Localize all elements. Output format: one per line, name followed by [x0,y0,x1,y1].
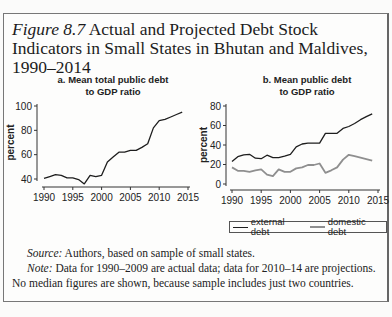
source-label: Source: [27,247,62,259]
y-tick-label: 60 [21,149,33,160]
y-tick-label: 80 [21,125,33,136]
legend-domestic-swatch [310,226,325,228]
x-tick-label: 2005 [119,192,142,203]
note-label: Note: [27,262,53,274]
y-tick-label: 0 [215,179,221,190]
caption: Source: Authors, based on sample of smal… [12,246,384,291]
y-tick-label: 80 [210,101,222,112]
source-line: Source: Authors, based on sample of smal… [12,246,384,261]
x-tick-label: 1995 [62,192,85,203]
legend-external-label: external debt [251,217,305,237]
y-axis-label: percent [198,126,209,163]
x-tick-label: 2010 [148,192,171,203]
source-text: Authors, based on sample of small states… [62,247,255,259]
x-tick-label: 2015 [177,192,200,203]
y-tick-label: 100 [15,101,32,112]
x-tick-label: 1990 [221,195,244,206]
series-line-total-public-debt [44,112,182,184]
x-tick-label: 2010 [338,195,361,206]
y-tick-label: 60 [210,120,222,131]
y-tick-label: 40 [210,140,222,151]
y-axis-label: percent [5,124,16,161]
legend-domestic-label: domestic debt [328,217,386,237]
legend: external debt domestic debt [229,221,387,233]
x-tick-label: 2000 [90,192,113,203]
x-tick-label: 1990 [33,192,56,203]
x-tick-label: 1995 [250,195,273,206]
series-line-domestic-debt [232,155,372,176]
note-text: Data for 1990–2009 are actual data; data… [12,262,376,289]
y-tick-label: 40 [21,174,33,185]
x-tick-label: 2000 [279,195,302,206]
y-tick-label: 20 [210,159,222,170]
x-tick-label: 2005 [308,195,331,206]
note-line: Note: Data for 1990–2009 are actual data… [12,261,384,291]
series-line-external-debt [232,114,372,162]
x-tick-label: 2015 [367,195,390,206]
legend-external-swatch [233,227,248,228]
